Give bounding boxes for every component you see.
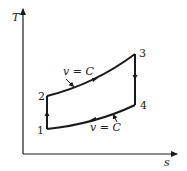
arrow-2-3-icon — [92, 78, 98, 82]
top-curve-annotation: v = C — [63, 65, 94, 78]
arrow-1-2-icon — [45, 111, 50, 116]
s-axis-label: s — [164, 156, 170, 169]
direction-markers — [45, 75, 138, 121]
point-4-label: 4 — [140, 99, 147, 112]
t-axis-label: T — [12, 11, 21, 24]
point-1-label: 1 — [37, 124, 44, 137]
arrow-3-4-icon — [133, 75, 138, 80]
bottom-curve-annotation: v = C — [90, 121, 121, 134]
point-3-label: 3 — [139, 47, 146, 60]
top-curve-leader — [66, 79, 74, 87]
point-2-label: 2 — [38, 90, 45, 103]
ts-diagram: T s 1 2 3 4 v = C v = C — [0, 0, 187, 171]
